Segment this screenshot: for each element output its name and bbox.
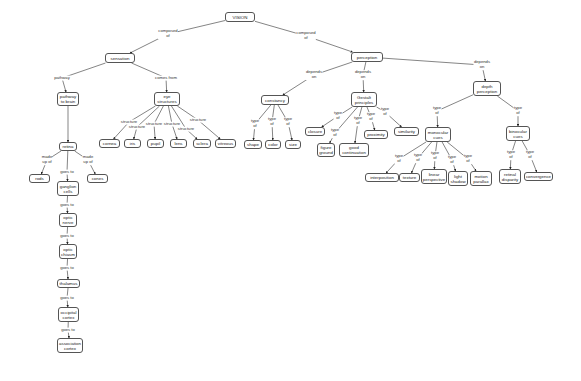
link-label: goes to: [60, 296, 75, 301]
concept-node-depth[interactable]: depth perception: [473, 81, 501, 96]
link-label: type of: [526, 150, 535, 160]
link-eye-vitreous: [177, 106, 220, 139]
concept-node-constancy[interactable]: constancy: [261, 95, 289, 105]
concept-node-similarity[interactable]: similarity: [394, 127, 419, 136]
concept-node-ganglion[interactable]: ganglion cells: [57, 181, 79, 196]
link-label: type of: [334, 111, 343, 121]
link-label: type of: [507, 150, 516, 160]
link-label: type of: [395, 154, 404, 164]
link-label: depends on: [305, 70, 322, 80]
concept-node-lens[interactable]: lens: [170, 139, 187, 148]
concept-node-cones[interactable]: cones: [87, 174, 108, 183]
concept-node-shape[interactable]: shape: [244, 140, 262, 149]
link-depth-monocular: [437, 95, 473, 127]
link-label: type of: [514, 106, 523, 116]
link-label: goes to: [60, 203, 75, 208]
concept-node-figure[interactable]: figure ground: [317, 143, 335, 157]
concept-node-sensation[interactable]: sensation: [105, 53, 135, 63]
link-label: type of: [433, 106, 442, 116]
concept-node-binocular[interactable]: binocular cues: [506, 126, 530, 141]
link-label: made up of: [82, 155, 93, 165]
link-label: depends on: [473, 60, 490, 70]
link-label: structure: [145, 122, 162, 127]
concept-node-perception[interactable]: perception: [351, 52, 383, 62]
concept-node-interposition[interactable]: interposition: [365, 173, 399, 182]
concept-node-goodcont[interactable]: good continuation: [339, 143, 369, 157]
concept-node-cornea[interactable]: cornea: [99, 139, 120, 148]
concept-node-linear[interactable]: linear perspective: [421, 169, 447, 184]
concept-map-canvas: composed ofcomposed ofpathwaycomes fromm…: [0, 0, 581, 381]
concept-node-vision[interactable]: VISION: [225, 12, 255, 22]
concept-node-pupil[interactable]: pupil: [147, 139, 164, 148]
link-label: type of: [354, 116, 363, 126]
link-label: goes to: [61, 328, 76, 333]
concept-node-chiasm[interactable]: optic chiasm: [59, 244, 77, 259]
concept-node-retinal[interactable]: retinal disparity: [499, 169, 521, 184]
link-label: composed of: [158, 29, 178, 39]
link-label: goes to: [60, 234, 75, 239]
link-label: type of: [331, 128, 340, 138]
link-label: comes from: [155, 76, 178, 81]
concept-node-vitreous[interactable]: vitreous: [215, 139, 236, 148]
link-label: type of: [251, 119, 260, 129]
concept-node-sclera[interactable]: sclera: [193, 139, 211, 148]
link-label: type of: [284, 117, 293, 127]
concept-node-color[interactable]: color: [265, 140, 281, 149]
link-label: structure: [128, 125, 145, 130]
concept-node-opticnerve[interactable]: optic nerve: [59, 213, 77, 227]
concept-node-pathway[interactable]: pathway to brain: [57, 92, 79, 106]
link-label: type of: [431, 151, 440, 161]
concept-node-texture[interactable]: texture: [399, 173, 420, 182]
link-label: structure: [189, 118, 206, 123]
concept-node-rods[interactable]: rods: [29, 174, 50, 183]
link-label: type of: [414, 153, 423, 163]
concept-node-size[interactable]: size: [285, 140, 301, 149]
concept-node-association[interactable]: association cortex: [57, 338, 83, 353]
link-perception-depth: [383, 58, 485, 81]
link-retina-ganglion: [67, 151, 68, 181]
concept-node-closure[interactable]: closure: [305, 127, 325, 136]
concept-node-iris[interactable]: iris: [124, 139, 141, 148]
link-label: type of: [448, 155, 457, 165]
link-label: goes to: [60, 266, 75, 271]
link-lines: [0, 0, 581, 381]
concept-node-gestalt[interactable]: Gestalt principles: [351, 92, 377, 107]
link-label: made up of: [41, 155, 52, 165]
link-label: goes to: [60, 170, 75, 175]
concept-node-thalamus[interactable]: thalamus: [57, 279, 80, 288]
concept-node-motion[interactable]: motion parallax: [470, 171, 492, 186]
concept-node-monocular[interactable]: monocular cues: [425, 127, 451, 142]
concept-node-eye[interactable]: eye structures: [154, 92, 180, 106]
concept-node-convergence[interactable]: convergence: [524, 172, 553, 181]
link-label: depends on: [354, 70, 371, 80]
concept-node-proximity[interactable]: proximity: [364, 130, 388, 139]
link-label: type of: [464, 154, 473, 164]
concept-node-occipital[interactable]: occipital cortex: [58, 307, 79, 322]
link-label: structure: [177, 127, 194, 132]
link-label: type of: [381, 107, 390, 117]
link-label: composed of: [296, 31, 316, 41]
link-label: type of: [268, 117, 277, 127]
link-label: pathway: [54, 76, 71, 81]
link-label: type of: [367, 112, 376, 122]
concept-node-lightshadow[interactable]: light shadow: [448, 171, 468, 186]
concept-node-retina[interactable]: retina: [59, 142, 77, 151]
